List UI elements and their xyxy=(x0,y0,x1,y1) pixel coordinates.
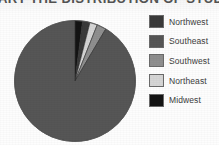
legend-item-midwest[interactable]: Midwest xyxy=(149,90,219,110)
pie-slice-group xyxy=(14,21,135,142)
chart-figure: ART THE DISTRIBUTION OF STUDENTS Northwe… xyxy=(0,0,219,145)
legend-swatch-midwest xyxy=(149,94,164,107)
legend-swatch-southeast xyxy=(149,35,164,48)
legend-swatch-northwest xyxy=(149,15,164,28)
legend-swatch-southwest xyxy=(149,54,164,67)
legend-label-southeast: Southeast xyxy=(169,36,208,46)
page-title: ART THE DISTRIBUTION OF STUDENTS xyxy=(0,0,219,6)
legend-swatch-northeast xyxy=(149,74,164,87)
pie-slice-southeast[interactable] xyxy=(14,21,135,142)
legend-item-northeast[interactable]: Northeast xyxy=(149,71,219,91)
legend-item-northwest[interactable]: Northwest xyxy=(149,12,219,32)
legend-label-northwest: Northwest xyxy=(169,17,208,27)
legend-label-midwest: Midwest xyxy=(169,95,201,105)
legend-item-southwest[interactable]: Southwest xyxy=(149,51,219,71)
legend-label-northeast: Northeast xyxy=(169,76,207,86)
chart-title-clipped: ART THE DISTRIBUTION OF STUDENTS xyxy=(0,0,219,8)
chart-legend: Northwest Southeast Southwest Northeast … xyxy=(149,12,219,110)
pie-chart xyxy=(14,20,136,142)
pie-chart-svg xyxy=(14,20,136,142)
legend-item-southeast[interactable]: Southeast xyxy=(149,32,219,52)
legend-label-southwest: Southwest xyxy=(169,56,210,66)
